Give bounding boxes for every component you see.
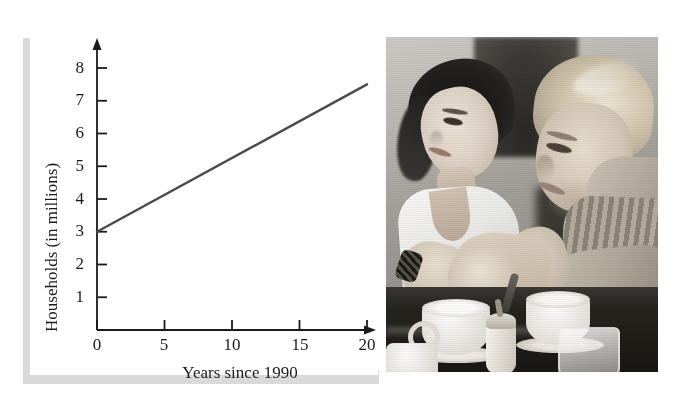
line-chart-panel: 8 7 6 5 4 3 2 1 0 5 10 15 20 Years since… xyxy=(30,30,378,375)
y-axis xyxy=(93,38,102,330)
y-tick-label-3: 3 xyxy=(60,221,84,241)
figure-stage: 8 7 6 5 4 3 2 1 0 5 10 15 20 Years since… xyxy=(0,0,676,404)
y-axis-ticks xyxy=(97,68,107,297)
x-tick-label-20: 20 xyxy=(352,335,382,355)
y-tick-label-1: 1 xyxy=(60,287,84,307)
y-tick-label-5: 5 xyxy=(60,156,84,176)
x-axis-title: Years since 1990 xyxy=(90,363,390,383)
x-axis xyxy=(97,326,376,335)
data-line-households xyxy=(97,84,367,231)
y-tick-label-2: 2 xyxy=(60,254,84,274)
x-axis-ticks xyxy=(97,320,367,330)
cafe-photograph xyxy=(386,37,658,372)
photo-content xyxy=(386,37,658,372)
x-tick-label-5: 5 xyxy=(152,335,176,355)
x-tick-label-0: 0 xyxy=(85,335,109,355)
y-tick-label-6: 6 xyxy=(60,123,84,143)
x-tick-label-15: 15 xyxy=(285,335,315,355)
y-tick-label-4: 4 xyxy=(60,189,84,209)
y-axis-title: Households (in millions) xyxy=(42,163,62,332)
y-tick-label-7: 7 xyxy=(60,90,84,110)
photo-film-grain xyxy=(386,37,658,372)
x-tick-label-10: 10 xyxy=(217,335,247,355)
y-tick-label-8: 8 xyxy=(60,58,84,78)
